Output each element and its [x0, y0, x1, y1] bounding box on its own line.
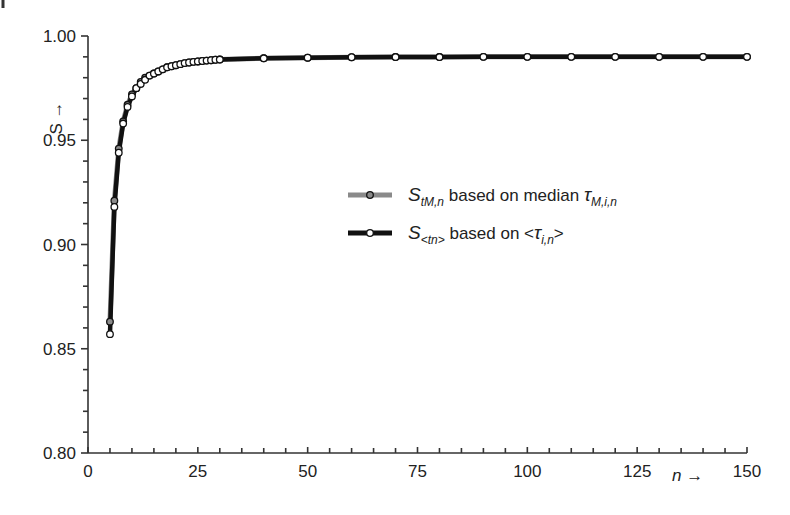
- data-point: [107, 331, 114, 338]
- data-point: [115, 149, 122, 156]
- data-point: [348, 54, 355, 61]
- data-point: [568, 54, 575, 61]
- data-point: [656, 54, 663, 61]
- data-point: [129, 93, 136, 100]
- y-axis-label: S →: [47, 101, 66, 134]
- data-point: [111, 204, 118, 211]
- data-point: [612, 54, 619, 61]
- legend-label: S<tn> based on <τi,n>: [408, 222, 564, 247]
- y-tick-label: 0.90: [43, 236, 76, 255]
- x-tick-label: 75: [408, 462, 427, 481]
- x-tick-label: 100: [513, 462, 541, 481]
- data-point: [124, 104, 131, 111]
- x-tick-label: 125: [623, 462, 651, 481]
- data-point: [700, 54, 707, 61]
- data-point: [304, 54, 311, 61]
- legend-label: StM,n based on median τM,i,n: [408, 184, 617, 209]
- legend: StM,n based on median τM,i,nS<tn> based …: [348, 184, 617, 247]
- x-tick-label: 0: [83, 462, 92, 481]
- data-point: [436, 54, 443, 61]
- legend-swatch-marker: [367, 192, 374, 199]
- x-tick-label: 25: [188, 462, 207, 481]
- chart-canvas: 02550751001251500.800.850.900.951.00 S →…: [0, 0, 790, 515]
- data-point: [120, 120, 127, 127]
- data-point: [744, 54, 751, 61]
- data-point: [217, 56, 224, 63]
- x-axis-label: n →: [672, 466, 703, 485]
- series-median: [110, 57, 747, 322]
- x-tick-label: 50: [298, 462, 317, 481]
- series-line: [110, 57, 747, 322]
- data-point: [524, 54, 531, 61]
- data-point: [260, 55, 267, 62]
- data-point: [392, 54, 399, 61]
- y-tick-label: 0.80: [43, 444, 76, 463]
- legend-item-median: StM,n based on median τM,i,n: [348, 184, 617, 209]
- data-point: [107, 318, 114, 325]
- axes: 02550751001251500.800.850.900.951.00: [43, 27, 761, 481]
- data-point: [480, 54, 487, 61]
- series-median-markers: [107, 54, 751, 325]
- legend-item-mean: S<tn> based on <τi,n>: [348, 222, 564, 247]
- y-tick-label: 1.00: [43, 27, 76, 46]
- legend-swatch-marker: [367, 230, 374, 237]
- x-tick-label: 150: [733, 462, 761, 481]
- y-tick-label: 0.85: [43, 340, 76, 359]
